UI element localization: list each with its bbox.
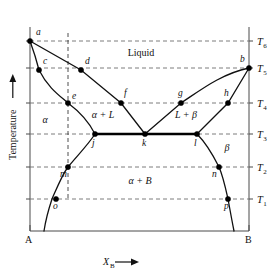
point-label-b: b bbox=[240, 54, 245, 64]
point-marker-n bbox=[216, 164, 221, 169]
x-axis-title-main: X bbox=[102, 256, 110, 267]
up-arrow-icon bbox=[9, 74, 16, 98]
point-label-a: a bbox=[36, 27, 41, 37]
temp-label-T5: T5 bbox=[257, 63, 267, 77]
point-label-o: o bbox=[53, 201, 58, 211]
svg-text:T1: T1 bbox=[257, 194, 267, 208]
temp-label-T2: T2 bbox=[257, 162, 267, 176]
temp-label-T6: T6 bbox=[257, 36, 267, 50]
point-label-e: e bbox=[72, 91, 76, 101]
solvus-left-lower-curve bbox=[44, 134, 95, 231]
temp-label-T4: T4 bbox=[257, 98, 267, 112]
axis-ticks bbox=[26, 41, 253, 231]
svg-text:T5: T5 bbox=[257, 63, 267, 77]
point-f: f bbox=[118, 88, 128, 106]
point-label-c: c bbox=[43, 56, 48, 66]
phase-boundaries bbox=[30, 41, 249, 231]
phase-diagram-figure: abcdefghjklmnop Liquidαα + LL + ββα + B … bbox=[0, 0, 280, 274]
point-l: l bbox=[194, 131, 200, 148]
point-label-m: m bbox=[60, 169, 67, 179]
point-d: d bbox=[78, 56, 90, 73]
point-marker-k bbox=[142, 131, 147, 136]
region-label-alpha-plus-B: α + B bbox=[128, 175, 151, 186]
region-label-alpha: α bbox=[42, 114, 48, 125]
point-j: j bbox=[90, 131, 98, 148]
point-marker-d bbox=[78, 67, 83, 72]
svg-text:T6: T6 bbox=[257, 36, 267, 50]
point-label-k: k bbox=[142, 138, 147, 148]
point-marker-f bbox=[118, 100, 123, 105]
svg-text:T4: T4 bbox=[257, 98, 267, 112]
point-o: o bbox=[53, 196, 59, 211]
y-axis-title: Temperature bbox=[7, 74, 18, 160]
region-label-beta: β bbox=[224, 142, 230, 153]
right-arrow-icon bbox=[115, 259, 139, 266]
liquidus-right-curve bbox=[145, 68, 249, 134]
x-axis-title: X B bbox=[102, 256, 139, 270]
point-label-h: h bbox=[224, 88, 229, 98]
point-marker-j bbox=[92, 131, 97, 136]
x-axis-title-sub: B bbox=[110, 262, 115, 270]
point-marker-e bbox=[65, 100, 70, 105]
temp-label-T1: T1 bbox=[257, 194, 267, 208]
left-endpoint-label: A bbox=[25, 234, 33, 245]
region-label-alpha-plus-L: α + L bbox=[92, 109, 115, 120]
y-axis-title-text: Temperature bbox=[7, 109, 18, 160]
point-marker-c bbox=[36, 67, 41, 72]
region-label-liquid: Liquid bbox=[128, 47, 155, 58]
point-label-f: f bbox=[124, 88, 128, 98]
phase-diagram-canvas: abcdefghjklmnop Liquidαα + LL + ββα + B … bbox=[0, 0, 280, 274]
region-label-L-plus-beta: L + β bbox=[174, 109, 197, 120]
temperature-axis-labels: T6T5T4T3T2T1 bbox=[257, 36, 267, 208]
right-endpoint-label: B bbox=[245, 234, 252, 245]
point-marker-l bbox=[194, 131, 199, 136]
point-marker-a bbox=[27, 38, 32, 43]
point-label-l: l bbox=[194, 138, 197, 148]
point-h: h bbox=[224, 88, 231, 106]
point-marker-b bbox=[246, 65, 251, 70]
point-marker-h bbox=[225, 100, 230, 105]
point-label-g: g bbox=[178, 88, 183, 98]
solidus-left-upper-curve bbox=[30, 41, 95, 134]
solidus-right-upper-curve bbox=[197, 68, 249, 134]
temp-label-T3: T3 bbox=[257, 129, 267, 143]
svg-text:T3: T3 bbox=[257, 129, 267, 143]
point-label-d: d bbox=[85, 56, 90, 66]
point-g: g bbox=[178, 88, 184, 106]
point-k: k bbox=[142, 131, 148, 148]
point-marker-g bbox=[178, 100, 183, 105]
svg-text:T2: T2 bbox=[257, 162, 267, 176]
point-label-p: p bbox=[223, 201, 229, 211]
point-label-n: n bbox=[212, 169, 217, 179]
